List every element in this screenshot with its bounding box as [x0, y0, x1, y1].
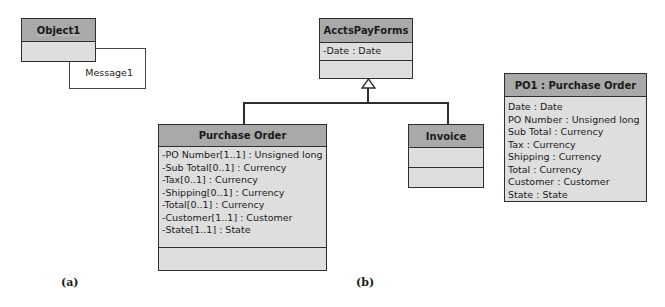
attribute: -Date : Date — [323, 45, 409, 58]
attribute: Total : Currency — [508, 164, 643, 177]
acctspayforms-class: AcctsPayForms -Date : Date — [319, 18, 413, 79]
generalization-arrow-icon — [361, 78, 376, 89]
attribute: State : State — [508, 189, 643, 202]
acctspayforms-attributes: -Date : Date — [320, 43, 412, 61]
purchase-order-class: Purchase Order -PO Number[1..1] : Unsign… — [158, 124, 327, 271]
acctspayforms-header: AcctsPayForms — [320, 19, 412, 43]
attribute: -PO Number[1..1] : Unsigned long — [162, 149, 323, 162]
connector-to-invoice — [447, 102, 449, 125]
acctspayforms-name: AcctsPayForms — [324, 25, 409, 36]
attribute: Date : Date — [508, 101, 643, 114]
attribute: -Customer[1..1] : Customer — [162, 212, 323, 225]
connector-to-purchase-order — [243, 102, 245, 125]
purchase-order-name: Purchase Order — [199, 130, 287, 141]
attribute: -Shipping[0..1] : Currency — [162, 187, 323, 200]
po1-attributes: Date : Date PO Number : Unsigned long Su… — [505, 97, 646, 204]
invoice-header: Invoice — [409, 125, 483, 148]
message1-label: Message1 — [85, 67, 133, 78]
attribute: -State[1..1] : State — [162, 224, 323, 237]
acctspayforms-operations — [320, 61, 412, 77]
attribute: -Total[0..1] : Currency — [162, 199, 323, 212]
object1-name: Object1 — [37, 25, 81, 36]
object1-body — [22, 42, 95, 61]
attribute: Customer : Customer — [508, 176, 643, 189]
po1-instance: PO1 : Purchase Order Date : Date PO Numb… — [504, 73, 647, 202]
invoice-operations — [409, 168, 483, 186]
object1-box: Object1 — [21, 18, 96, 62]
purchase-order-header: Purchase Order — [159, 125, 326, 147]
object1-header: Object1 — [22, 19, 95, 42]
attribute: -Sub Total[0..1] : Currency — [162, 162, 323, 175]
purchase-order-attributes: -PO Number[1..1] : Unsigned long -Sub To… — [159, 147, 326, 248]
attribute: PO Number : Unsigned long — [508, 114, 643, 127]
attribute: -Tax[0..1] : Currency — [162, 174, 323, 187]
caption-a: (a) — [61, 276, 79, 289]
invoice-class: Invoice — [408, 124, 484, 188]
connector-trunk — [367, 88, 369, 103]
invoice-name: Invoice — [426, 131, 466, 142]
caption-b: (b) — [356, 276, 374, 289]
po1-header: PO1 : Purchase Order — [505, 74, 646, 97]
invoice-attributes — [409, 148, 483, 168]
connector-horizontal — [243, 102, 448, 104]
purchase-order-operations — [159, 248, 326, 269]
po1-name: PO1 : Purchase Order — [515, 80, 636, 91]
attribute: Sub Total : Currency — [508, 126, 643, 139]
attribute: Shipping : Currency — [508, 151, 643, 164]
attribute: Tax : Currency — [508, 139, 643, 152]
